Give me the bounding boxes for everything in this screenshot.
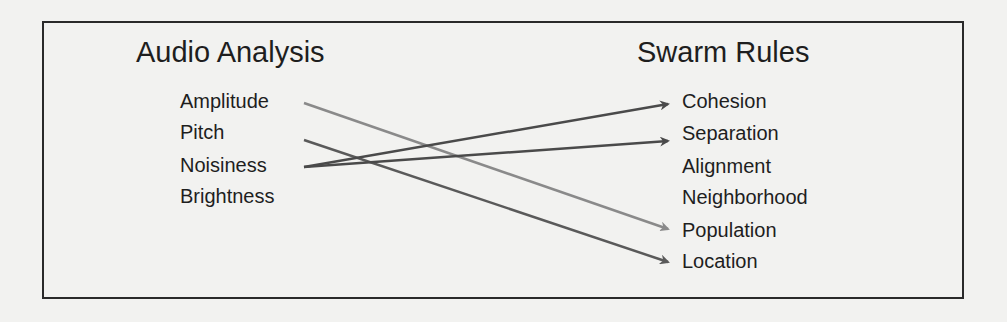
arrow-noisiness-to-separation [304, 141, 668, 167]
arrow-noisiness-to-cohesion [304, 104, 668, 167]
arrow-amplitude-to-population [304, 103, 668, 229]
mapping-arrows [0, 0, 1007, 322]
